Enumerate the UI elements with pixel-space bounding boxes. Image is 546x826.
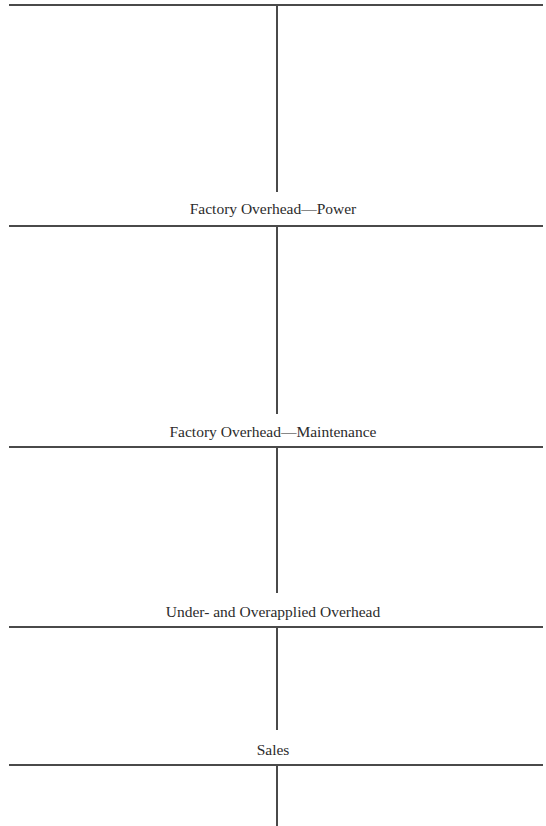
t-account-divider [276, 4, 278, 192]
t-account-title: Factory Overhead—Maintenance [0, 423, 546, 441]
t-account-title: Sales [0, 741, 546, 759]
t-account-divider [276, 226, 278, 414]
t-account-title: Under- and Overapplied Overhead [0, 603, 546, 621]
t-account-divider [276, 627, 278, 730]
t-account-title: Factory Overhead—Power [0, 200, 546, 218]
t-account-divider [276, 447, 278, 593]
t-account-divider [276, 765, 278, 826]
